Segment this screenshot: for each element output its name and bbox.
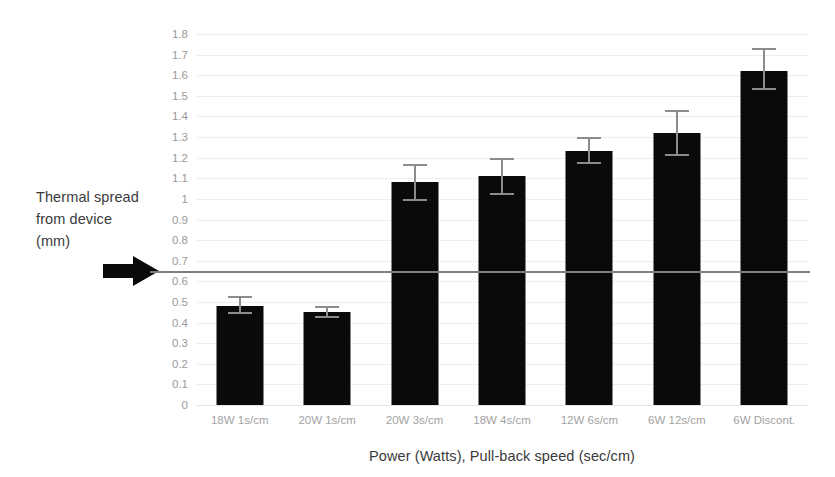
- y-axis-label: Thermal spread from device (mm): [36, 186, 166, 252]
- error-bar-cap-top: [315, 306, 339, 308]
- error-bar: [577, 137, 601, 164]
- y-axis-tick-label: 1.5: [172, 90, 188, 102]
- bar-group: [196, 34, 283, 405]
- bar-group: [546, 34, 633, 405]
- y-axis-tick-label: 1.3: [172, 131, 188, 143]
- error-bar-cap-bottom: [752, 88, 776, 90]
- bar-group: [721, 34, 808, 405]
- error-bar-cap-top: [577, 137, 601, 139]
- gridline: [196, 405, 808, 406]
- y-axis-tick-label: 1.4: [172, 110, 188, 122]
- bar: [653, 133, 700, 405]
- error-bar-cap-bottom: [228, 312, 252, 314]
- bar: [304, 312, 351, 405]
- x-axis-tick-label: 18W 4s/cm: [473, 414, 531, 426]
- error-bar: [315, 306, 339, 318]
- y-axis-tick-label: 0: [182, 399, 188, 411]
- y-axis-label-line-1: Thermal spread: [36, 186, 166, 208]
- y-axis-tick-label: 1.1: [172, 172, 188, 184]
- error-bar-cap-top: [228, 296, 252, 298]
- y-axis-tick-label: 0.5: [172, 296, 188, 308]
- y-axis-tick-label: 0.4: [172, 317, 188, 329]
- threshold-reference-line: [150, 271, 810, 273]
- error-bar-stem: [588, 137, 590, 164]
- x-axis-tick-label: 20W 3s/cm: [386, 414, 444, 426]
- error-bar-stem: [763, 48, 765, 89]
- bar: [478, 176, 525, 405]
- y-axis-tick-label: 1.6: [172, 69, 188, 81]
- bar: [216, 306, 263, 405]
- x-axis-tick-label: 20W 1s/cm: [298, 414, 356, 426]
- y-axis-tick-label: 0.7: [172, 255, 188, 267]
- bar-group: [633, 34, 720, 405]
- plot-area: 00.10.20.30.40.50.60.70.80.911.11.21.31.…: [196, 34, 808, 405]
- error-bar: [752, 48, 776, 89]
- error-bar-stem: [676, 110, 678, 155]
- error-bar-cap-bottom: [315, 316, 339, 318]
- error-bar-cap-top: [665, 110, 689, 112]
- y-axis-tick-label: 0.8: [172, 234, 188, 246]
- error-bar-cap-top: [752, 48, 776, 50]
- error-bar-cap-bottom: [665, 154, 689, 156]
- y-axis-label-line-3: (mm): [36, 230, 166, 252]
- bar: [741, 71, 788, 405]
- error-bar-cap-bottom: [490, 193, 514, 195]
- y-axis-label-line-2: from device: [36, 208, 166, 230]
- y-axis-tick-label: 0.2: [172, 358, 188, 370]
- error-bar: [228, 296, 252, 315]
- x-axis-tick-labels: 18W 1s/cm20W 1s/cm20W 3s/cm18W 4s/cm12W …: [196, 414, 808, 434]
- y-axis-tick-label: 1.2: [172, 152, 188, 164]
- y-axis-tick-label: 1.8: [172, 28, 188, 40]
- x-axis-tick-label: 12W 6s/cm: [561, 414, 619, 426]
- error-bar: [665, 110, 689, 155]
- y-axis-tick-label: 0.6: [172, 275, 188, 287]
- error-bar-cap-bottom: [403, 199, 427, 201]
- y-axis-tick-label: 0.9: [172, 214, 188, 226]
- error-bar-cap-bottom: [577, 162, 601, 164]
- y-axis-tick-label: 1.7: [172, 49, 188, 61]
- error-bar-cap-top: [403, 164, 427, 166]
- y-axis-tick-label: 0.3: [172, 337, 188, 349]
- error-bar-stem: [414, 164, 416, 201]
- x-axis-tick-label: 6W 12s/cm: [648, 414, 706, 426]
- x-axis-tick-label: 6W Discont.: [733, 414, 795, 426]
- error-bar-cap-top: [490, 158, 514, 160]
- bar-group: [458, 34, 545, 405]
- error-bar: [403, 164, 427, 201]
- thermal-spread-bar-chart: Thermal spread from device (mm) 00.10.20…: [0, 0, 835, 477]
- y-axis-tick-label: 0.1: [172, 378, 188, 390]
- error-bar-stem: [501, 158, 503, 195]
- error-bar: [490, 158, 514, 195]
- bar-group: [283, 34, 370, 405]
- bar-group: [371, 34, 458, 405]
- y-axis-tick-label: 1: [182, 193, 188, 205]
- bar: [391, 182, 438, 405]
- x-axis-tick-label: 18W 1s/cm: [211, 414, 269, 426]
- x-axis-title: Power (Watts), Pull-back speed (sec/cm): [196, 448, 808, 464]
- bar: [566, 151, 613, 405]
